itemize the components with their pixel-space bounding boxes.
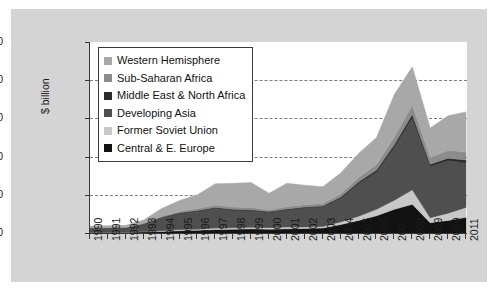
y-axis-tick-label: 500 [0, 36, 3, 47]
chart-plate: $ billion 0100200300400500 1990199119921… [11, 9, 487, 282]
x-axis-tick-label: 1992 [129, 218, 140, 241]
y-axis-tick-label: 300 [0, 112, 3, 123]
x-axis-tick-mark [375, 234, 376, 239]
x-axis-tick-mark [393, 234, 394, 239]
chart-legend: Western HemisphereSub-Saharan AfricaMidd… [98, 47, 253, 162]
x-axis-tick-mark [340, 234, 341, 239]
x-axis-tick-label: 2006 [379, 218, 390, 241]
legend-item-label: Former Soviet Union [117, 125, 218, 136]
x-axis-tick-label: 2008 [415, 218, 426, 241]
legend-swatch-icon [104, 57, 112, 65]
x-axis-tick-label: 2011 [469, 218, 480, 241]
x-axis-tick-mark [358, 234, 359, 239]
x-axis-tick-mark [196, 234, 197, 239]
legend-item-label: Sub-Saharan Africa [117, 73, 212, 84]
figure: $ billion 0100200300400500 1990199119921… [0, 0, 498, 291]
x-axis-tick-label: 2009 [433, 218, 444, 241]
x-axis-tick-label: 1997 [218, 218, 229, 241]
x-axis-tick-mark [304, 234, 305, 239]
x-axis-tick-mark [429, 234, 430, 239]
legend-swatch-icon [104, 109, 112, 117]
legend-swatch-icon [104, 92, 112, 100]
y-axis-label: $ billion [39, 78, 51, 114]
legend-item: Western Hemisphere [104, 52, 245, 70]
x-axis-tick-label: 2010 [451, 218, 462, 241]
y-axis-tick-label: 100 [0, 189, 3, 200]
x-axis-tick-label: 2005 [362, 218, 373, 241]
x-axis-tick-mark [125, 234, 126, 239]
x-axis-tick-label: 1991 [111, 218, 122, 241]
x-axis-tick-label: 2002 [308, 218, 319, 241]
legend-swatch-icon [104, 127, 112, 135]
x-axis-tick-label: 2007 [397, 218, 408, 241]
x-axis-tick-mark [107, 234, 108, 239]
x-axis-tick-label: 2000 [272, 218, 283, 241]
x-axis-tick-mark [179, 234, 180, 239]
x-axis-tick-mark [232, 234, 233, 239]
x-axis-tick-mark [143, 234, 144, 239]
x-axis-tick-label: 1990 [93, 218, 104, 241]
x-axis-tick-mark [161, 234, 162, 239]
legend-item: Former Soviet Union [104, 122, 245, 140]
x-axis-tick-mark [89, 234, 90, 239]
x-axis-tick-label: 1994 [165, 218, 176, 241]
y-axis-tick-label: 0 [0, 227, 3, 238]
legend-swatch-icon [104, 144, 112, 152]
legend-item-label: Central & E. Europe [117, 143, 215, 154]
legend-item-label: Western Hemisphere [117, 55, 220, 66]
legend-item: Middle East & North Africa [104, 87, 245, 105]
x-axis-tick-mark [286, 234, 287, 239]
legend-item: Central & E. Europe [104, 140, 245, 158]
x-axis-tick-label: 2004 [344, 218, 355, 241]
x-axis-tick-label: 1998 [236, 218, 247, 241]
x-axis-tick-mark [214, 234, 215, 239]
x-axis-tick-label: 1996 [200, 218, 211, 241]
x-axis-tick-mark [447, 234, 448, 239]
x-axis-tick-mark [268, 234, 269, 239]
x-axis-tick-label: 2001 [290, 218, 301, 241]
legend-item-label: Middle East & North Africa [117, 90, 245, 101]
x-axis-tick-label: 1995 [183, 218, 194, 241]
x-axis-tick-mark [322, 234, 323, 239]
legend-item-label: Developing Asia [117, 108, 196, 119]
legend-swatch-icon [104, 74, 112, 82]
x-axis-tick-label: 1999 [254, 218, 265, 241]
x-axis-tick-label: 1993 [147, 218, 158, 241]
x-axis-tick-mark [250, 234, 251, 239]
x-axis-tick-label: 2003 [326, 218, 337, 241]
y-axis-tick-label: 400 [0, 74, 3, 85]
legend-item: Developing Asia [104, 105, 245, 123]
x-axis-tick-mark [411, 234, 412, 239]
y-axis-tick-label: 200 [0, 151, 3, 162]
legend-item: Sub-Saharan Africa [104, 70, 245, 88]
x-axis-tick-mark [465, 234, 466, 239]
